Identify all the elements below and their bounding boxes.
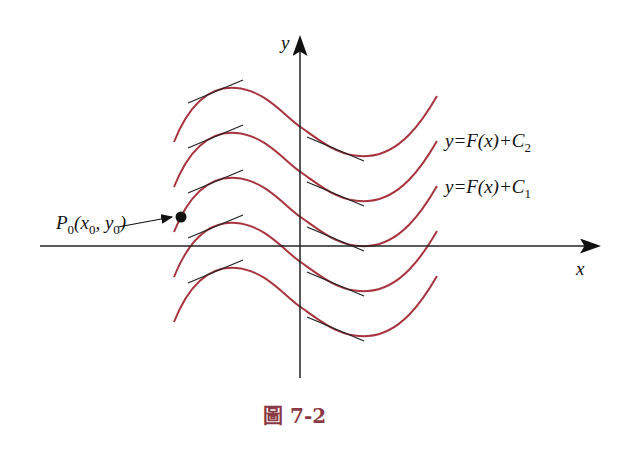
x-axis-label: x: [576, 258, 584, 280]
label-c2-sub: 2: [524, 140, 531, 155]
label-c1: y=F(x)+C1: [445, 176, 531, 202]
y-axis-label: y: [281, 32, 289, 54]
label-c1-text: y=F(x)+C: [445, 176, 524, 197]
curve-family: [174, 80, 437, 341]
point-label: P0(x0, y0): [56, 212, 126, 238]
p-end: ): [120, 212, 126, 233]
label-c2-text: y=F(x)+C: [445, 130, 524, 151]
label-c2: y=F(x)+C2: [445, 130, 531, 156]
label-c1-sub: 1: [524, 186, 531, 201]
point-p0: [176, 212, 187, 223]
figure-caption: 圖 7-2: [263, 400, 326, 429]
p-args: (x: [74, 212, 89, 233]
p-mid: , y: [95, 212, 113, 233]
p-text: P: [56, 212, 68, 233]
